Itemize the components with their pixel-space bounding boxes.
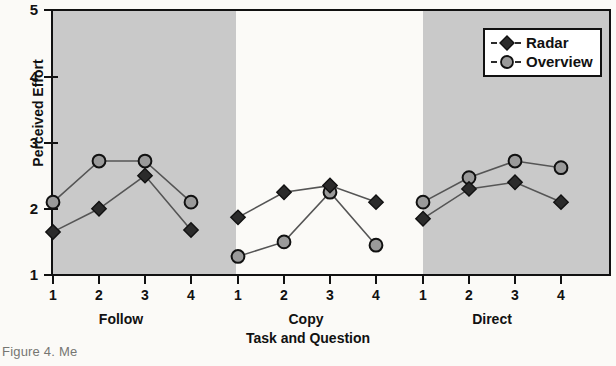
series-radar: [46, 168, 568, 239]
legend-entry-radar: Radar: [490, 33, 593, 52]
filled-diamond-icon: [490, 35, 524, 51]
series-overview: [47, 155, 568, 263]
figure-caption: Figure 4. Me: [2, 344, 77, 359]
figure-perceived-effort: 5 4 3 2 1 Perceived Effort 1 2 3 4 1 2 3…: [0, 0, 616, 366]
legend-label-radar: Radar: [526, 35, 569, 50]
open-circle-icon: [490, 54, 524, 70]
chart-legend: Radar Overview: [483, 28, 602, 77]
legend-entry-overview: Overview: [490, 52, 593, 71]
legend-label-overview: Overview: [526, 54, 593, 69]
